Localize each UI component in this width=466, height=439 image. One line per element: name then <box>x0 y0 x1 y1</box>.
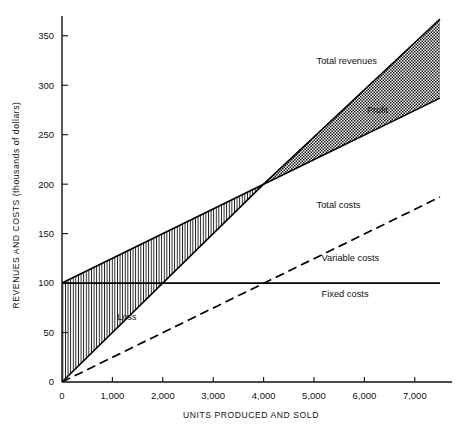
y-tick-label: 300 <box>38 80 54 91</box>
y-tick-label: 150 <box>38 228 54 239</box>
break-even-chart: 01,0002,0003,0004,0005,0006,0007,0000501… <box>0 0 466 439</box>
annotation-variable-costs: Variable costs <box>322 253 380 263</box>
y-tick-label: 350 <box>38 30 54 41</box>
y-axis-title: REVENUES AND COSTS (thousands of dollars… <box>11 102 21 309</box>
annotation-loss: Loss <box>117 312 137 322</box>
x-tick-label: 7,000 <box>403 390 427 401</box>
annotation-profit: Profit <box>367 105 389 115</box>
annotation-total-revenues: Total revenues <box>317 56 378 66</box>
annotation-fixed-costs: Fixed costs <box>322 289 369 299</box>
chart-canvas: 01,0002,0003,0004,0005,0006,0007,0000501… <box>0 0 466 439</box>
series-line-total-costs <box>62 98 440 283</box>
annotation-total-costs: Total costs <box>317 200 361 210</box>
y-tick-label: 50 <box>43 327 54 338</box>
y-tick-label: 250 <box>38 129 54 140</box>
x-tick-label: 1,000 <box>101 390 125 401</box>
x-tick-label: 4,000 <box>252 390 276 401</box>
x-tick-label: 5,000 <box>302 390 326 401</box>
y-tick-label: 100 <box>38 277 54 288</box>
x-axis-title: UNITS PRODUCED AND SOLD <box>183 410 319 420</box>
shaded-regions <box>62 19 440 382</box>
y-tick-label: 200 <box>38 179 54 190</box>
x-tick-label: 6,000 <box>353 390 377 401</box>
x-tick-label: 2,000 <box>151 390 175 401</box>
x-tick-label: 3,000 <box>201 390 225 401</box>
y-tick-label: 0 <box>49 376 54 387</box>
x-tick-label: 0 <box>59 390 64 401</box>
